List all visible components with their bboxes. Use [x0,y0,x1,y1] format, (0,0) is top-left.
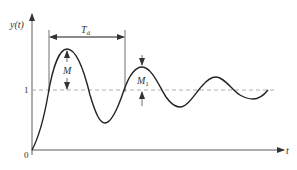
m-label: M [62,65,72,76]
level-one-label: 1 [24,85,29,95]
origin-label: 0 [24,150,29,160]
m1-label: M1 [136,75,149,88]
x-axis-label: t [286,145,289,156]
step-response-diagram: Td M M1 y(t) t 0 1 [0,0,297,170]
y-axis-label: y(t) [9,19,25,31]
td-label: Td [81,24,91,37]
